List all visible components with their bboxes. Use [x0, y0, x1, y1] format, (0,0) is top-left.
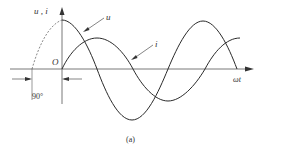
current-label: i	[155, 39, 158, 49]
figure-caption: (a)	[126, 135, 135, 144]
current-curve	[62, 38, 240, 101]
y-axis-label: u , i	[34, 6, 48, 16]
x-axis-arrow-icon	[245, 67, 254, 72]
origin-label: O	[52, 57, 59, 67]
voltage-leader-arrow-icon	[83, 27, 90, 32]
phase-arrow-right-icon	[62, 77, 69, 81]
voltage-curve	[62, 20, 237, 120]
y-axis-arrow-icon	[60, 7, 65, 15]
phase-label: 90°	[32, 92, 43, 101]
phase-arrow-left-icon	[25, 77, 32, 81]
phase-diagram: u , i O ωt u i 90° (a)	[0, 0, 283, 156]
voltage-label: u	[106, 12, 111, 22]
x-axis-label: ωt	[233, 75, 242, 84]
current-leader-arrow-icon	[131, 55, 138, 60]
